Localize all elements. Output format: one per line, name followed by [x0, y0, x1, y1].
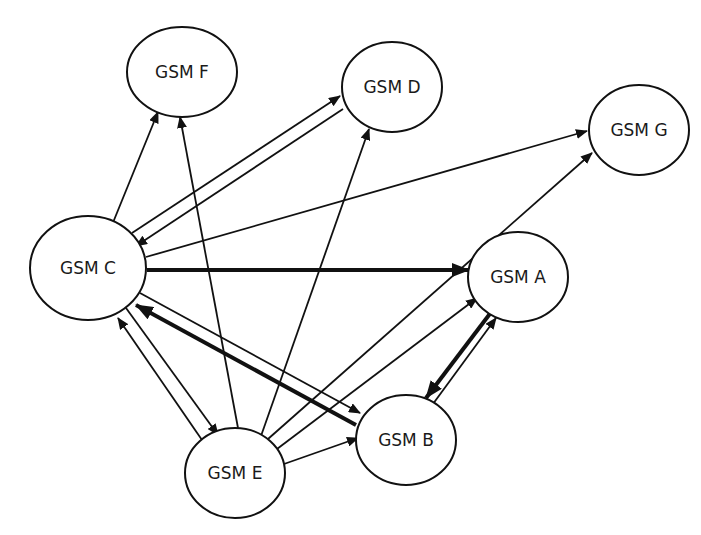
- edge-c-to-b-arrow: [140, 293, 360, 413]
- edge-c-to-f-arrow: [112, 112, 158, 225]
- node-label: GSM A: [490, 267, 546, 287]
- node-label: GSM G: [610, 120, 667, 140]
- gsm-network-diagram: GSM FGSM DGSM GGSM CGSM AGSM BGSM E: [0, 0, 701, 535]
- node-gsm-g: GSM G: [589, 85, 689, 175]
- node-gsm-b: GSM B: [356, 395, 456, 485]
- edge-b-to-a-arrow: [430, 318, 496, 408]
- node-gsm-a: GSM A: [468, 232, 568, 322]
- node-label: GSM B: [378, 430, 434, 450]
- node-gsm-d: GSM D: [342, 42, 442, 132]
- edge-a-to-b-arrow: [426, 311, 492, 398]
- edge-c-to-d-arrow: [132, 96, 340, 233]
- node-gsm-f: GSM F: [127, 27, 237, 117]
- node-label: GSM F: [155, 62, 209, 82]
- node-gsm-c: GSM C: [30, 216, 146, 320]
- node-label: GSM E: [208, 463, 263, 483]
- node-gsm-e: GSM E: [185, 428, 285, 518]
- node-label: GSM C: [60, 258, 116, 278]
- edge-d-to-c-arrow: [136, 109, 343, 246]
- node-label: GSM D: [363, 77, 420, 97]
- edge-e-to-f-arrow: [180, 117, 238, 428]
- nodes-layer: GSM FGSM DGSM GGSM CGSM AGSM BGSM E: [30, 27, 689, 518]
- edge-b-to-c-arrow: [136, 305, 356, 425]
- edge-e-to-d-arrow: [261, 129, 369, 436]
- edge-e-to-b-arrow: [284, 438, 358, 464]
